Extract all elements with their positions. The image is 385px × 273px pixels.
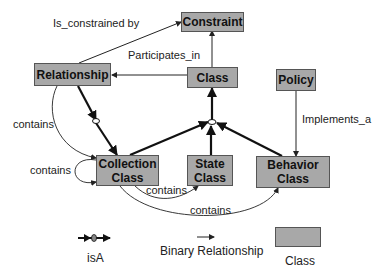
class-collection-label-1: Collection (98, 157, 156, 171)
edge-contains-self (75, 159, 96, 182)
class-relationship-label: Relationship (36, 68, 108, 82)
label-contains-collection-state: contains (146, 184, 187, 196)
class-constraint[interactable]: Constraint (181, 12, 244, 32)
class-state[interactable]: State Class (187, 155, 233, 186)
class-policy[interactable]: Policy (276, 69, 316, 91)
legend-class-swatch (275, 227, 321, 247)
class-state-label-2: Class (194, 171, 226, 185)
edge-isa-segment (96, 123, 117, 155)
legend-class-label: Class (285, 254, 315, 268)
edge-contains-rel-collection (52, 86, 96, 158)
class-behavior-label-2: Class (277, 172, 309, 186)
label-participates-in: Participates_in (128, 49, 200, 61)
class-state-label-1: State (195, 157, 224, 171)
label-contains-collection-behavior: contains (190, 204, 231, 216)
class-class[interactable]: Class (187, 67, 238, 88)
label-is-constrained-by: Is_constrained by (53, 17, 139, 29)
legend-binary-label: Binary Relationship (160, 244, 263, 258)
isa-junction-1 (93, 119, 100, 124)
class-collection-label-2: Class (111, 171, 143, 185)
edge-isa-relationship-collection (78, 86, 96, 120)
class-collection[interactable]: Collection Class (96, 155, 159, 186)
edge-isa-collection (130, 122, 208, 155)
edge-isa-behavior (217, 123, 282, 156)
class-behavior-label-1: Behavior (267, 158, 318, 172)
label-contains-self: contains (30, 164, 71, 176)
label-contains-rel-collection: contains (13, 118, 54, 130)
isa-junction-2 (208, 120, 216, 125)
legend-isa-label: isA (87, 251, 104, 265)
class-behavior[interactable]: Behavior Class (256, 156, 330, 188)
class-constraint-label: Constraint (183, 15, 243, 29)
label-implements-a: Implements_a (302, 113, 371, 125)
class-relationship[interactable]: Relationship (34, 63, 111, 86)
diagram-edges (0, 0, 385, 273)
legend-isa-icon (78, 234, 111, 242)
class-class-label: Class (196, 71, 228, 85)
class-policy-label: Policy (278, 73, 313, 87)
